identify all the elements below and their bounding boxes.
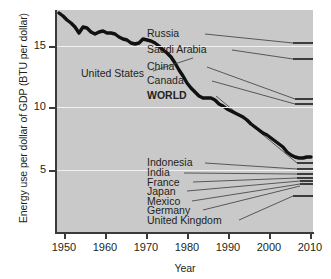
x-tick-label-2010: 2010 (290, 241, 330, 253)
x-tick-label-1970: 1970 (126, 241, 166, 253)
x-tick-label-1990: 1990 (208, 241, 248, 253)
leader-united-states (153, 58, 193, 71)
leader-united-states-wrap (57, 10, 313, 232)
y-tick-mark-5 (49, 170, 56, 172)
y-tick-label-5: 5 (24, 163, 46, 175)
y-tick-mark-10 (49, 107, 56, 109)
plot-area: Russia Saudi Arabia China Canada WORLD I… (57, 10, 313, 232)
y-tick-mark-15 (49, 46, 56, 48)
y-tick-label-15: 15 (24, 39, 46, 51)
y-axis-title: Energy use per dollar of GDP (BTU per do… (17, 3, 29, 233)
x-tick-mark-2000 (269, 233, 271, 239)
x-tick-label-1980: 1980 (167, 241, 207, 253)
x-tick-mark-1950 (64, 233, 66, 239)
x-axis-title: Year (57, 262, 313, 274)
y-axis-line (55, 10, 57, 233)
x-tick-label-1950: 1950 (44, 241, 84, 253)
x-tick-mark-1980 (187, 233, 189, 239)
x-axis-line (55, 232, 314, 234)
x-tick-mark-2010 (310, 233, 312, 239)
x-tick-mark-1990 (228, 233, 230, 239)
y-tick-label-10: 10 (24, 100, 46, 112)
chart-figure: Energy use per dollar of GDP (BTU per do… (0, 0, 331, 279)
x-tick-mark-1970 (146, 233, 148, 239)
x-tick-label-2000: 2000 (249, 241, 289, 253)
x-tick-label-1960: 1960 (85, 241, 125, 253)
x-tick-mark-1960 (105, 233, 107, 239)
